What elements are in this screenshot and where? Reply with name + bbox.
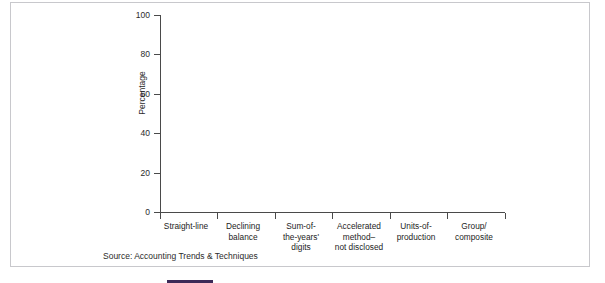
y-tick-mark-40: [154, 133, 160, 134]
x-tick-mark: [275, 213, 276, 219]
figure-frame: 100 80 60 40 20 0 Percentage: [10, 2, 590, 267]
bar-chart: 100 80 60 40 20 0 Percentage: [11, 3, 591, 268]
x-label-line: composite: [439, 232, 509, 243]
y-axis-title: Percentage: [137, 58, 147, 128]
y-tick-mark-60: [154, 94, 160, 95]
x-tick-mark: [217, 213, 218, 219]
source-note: Source: Accounting Trends & Techniques: [103, 251, 258, 261]
y-tick-label: 40: [141, 128, 150, 138]
y-tick-label: 0: [145, 207, 150, 217]
y-axis-line: [160, 15, 161, 213]
x-label-line: Group/: [439, 221, 509, 232]
x-tick-mark: [332, 213, 333, 219]
x-tick-mark: [390, 213, 391, 219]
x-tick-mark: [447, 213, 448, 219]
x-label-line: not disclosed: [321, 242, 397, 253]
x-label-group-composite: Group/ composite: [439, 221, 509, 242]
y-tick-mark-80: [154, 54, 160, 55]
x-tick-mark: [505, 213, 506, 219]
y-tick-label: 100: [136, 10, 150, 20]
y-tick-mark-20: [154, 173, 160, 174]
y-tick-mark-100: [154, 15, 160, 16]
y-tick-label: 20: [141, 168, 150, 178]
x-tick-mark: [160, 213, 161, 219]
